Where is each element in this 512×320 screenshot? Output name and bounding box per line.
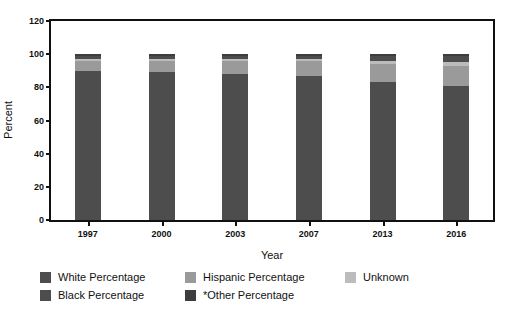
plot-inner: 020406080100120199720002003200720132016 xyxy=(51,21,493,220)
legend-item-black-percentage[interactable]: Black Percentage xyxy=(40,290,185,301)
bar-2013[interactable] xyxy=(370,21,396,220)
x-axis-tick-mark xyxy=(309,220,311,226)
bar-segment-unknown xyxy=(222,59,248,61)
bar-segment-hispanic-percentage xyxy=(296,61,322,76)
x-axis-tick-label: 2007 xyxy=(299,229,319,239)
legend-row-2: Black Percentage *Other Percentage xyxy=(40,290,470,301)
y-axis-tick-mark xyxy=(46,53,51,55)
y-axis-tick-mark xyxy=(46,86,51,88)
legend-label: Black Percentage xyxy=(58,290,144,301)
plot-area: 020406080100120199720002003200720132016 xyxy=(49,19,495,222)
bar-1997[interactable] xyxy=(75,21,101,220)
bar-segment-hispanic-percentage xyxy=(75,61,101,71)
y-axis-tick-mark xyxy=(46,219,51,221)
x-axis-tick-label: 2016 xyxy=(446,229,466,239)
bar-segment-white-percentage xyxy=(370,82,396,220)
bar-segment-unknown xyxy=(296,59,322,61)
y-axis-tick-mark xyxy=(46,153,51,155)
x-axis-tick-mark xyxy=(383,220,385,226)
legend-label: Hispanic Percentage xyxy=(203,272,305,283)
bar-segment-unknown xyxy=(75,59,101,61)
stacked-bar-chart: Percent 02040608010012019972000200320072… xyxy=(0,0,512,320)
legend-swatch-icon xyxy=(40,290,51,301)
bar-segment-unknown xyxy=(443,62,469,65)
bar-segment-hispanic-percentage xyxy=(222,61,248,74)
x-axis-tick-mark xyxy=(235,220,237,226)
y-axis-tick-mark xyxy=(46,120,51,122)
bar-2016[interactable] xyxy=(443,21,469,220)
legend-item-white-percentage[interactable]: White Percentage xyxy=(40,272,185,283)
bar-segment-hispanic-percentage xyxy=(443,66,469,86)
legend-swatch-icon xyxy=(345,272,356,283)
bar-segment-black-percentage xyxy=(370,56,396,61)
x-axis-title: Year xyxy=(261,249,283,261)
bar-segment-white-percentage xyxy=(222,74,248,220)
x-axis-tick-label: 2000 xyxy=(151,229,171,239)
bar-segment-black-percentage xyxy=(296,56,322,59)
bar-segment-other-percentage xyxy=(222,54,248,56)
legend-item-other-percentage[interactable]: *Other Percentage xyxy=(185,290,345,301)
bar-segment-white-percentage xyxy=(75,71,101,220)
bar-2003[interactable] xyxy=(222,21,248,220)
y-axis-tick-mark xyxy=(46,186,51,188)
y-axis-tick-mark xyxy=(46,20,51,22)
y-axis-title: Percent xyxy=(2,101,14,139)
x-axis-tick-mark xyxy=(456,220,458,226)
bar-segment-other-percentage xyxy=(443,54,469,56)
bar-segment-black-percentage xyxy=(75,56,101,59)
legend-item-hispanic-percentage[interactable]: Hispanic Percentage xyxy=(185,272,345,283)
bar-segment-other-percentage xyxy=(296,54,322,56)
legend-label: Unknown xyxy=(363,272,409,283)
bar-segment-white-percentage xyxy=(296,76,322,220)
bar-segment-other-percentage xyxy=(149,54,175,56)
x-axis-tick-mark xyxy=(88,220,90,226)
x-axis-tick-label: 2003 xyxy=(225,229,245,239)
bar-segment-other-percentage xyxy=(370,54,396,56)
bar-segment-black-percentage xyxy=(443,56,469,63)
legend-swatch-icon xyxy=(185,272,196,283)
legend-row-1: White Percentage Hispanic Percentage Unk… xyxy=(40,272,470,283)
x-axis-tick-label: 1997 xyxy=(78,229,98,239)
legend-label: White Percentage xyxy=(58,272,145,283)
bar-2007[interactable] xyxy=(296,21,322,220)
legend-label: *Other Percentage xyxy=(203,290,294,301)
x-axis-tick-label: 2013 xyxy=(372,229,392,239)
bar-segment-unknown xyxy=(370,61,396,64)
bar-segment-black-percentage xyxy=(149,56,175,59)
bar-segment-hispanic-percentage xyxy=(149,61,175,73)
bar-2000[interactable] xyxy=(149,21,175,220)
bar-segment-other-percentage xyxy=(75,54,101,56)
legend-swatch-icon xyxy=(185,290,196,301)
bar-segment-hispanic-percentage xyxy=(370,64,396,82)
legend-swatch-icon xyxy=(40,272,51,283)
bar-segment-black-percentage xyxy=(222,56,248,59)
bar-segment-white-percentage xyxy=(149,72,175,220)
bar-segment-unknown xyxy=(149,59,175,61)
legend-item-unknown[interactable]: Unknown xyxy=(345,272,455,283)
bar-segment-white-percentage xyxy=(443,86,469,220)
x-axis-tick-mark xyxy=(162,220,164,226)
chart-legend: White Percentage Hispanic Percentage Unk… xyxy=(40,272,470,308)
